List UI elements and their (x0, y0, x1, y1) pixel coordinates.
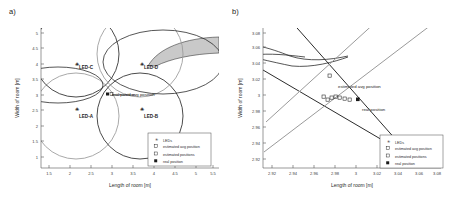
led-a-label: LED-A (79, 114, 94, 119)
y-tick-label: 2.98 (252, 109, 261, 114)
legend-filled-square-icon (386, 161, 389, 164)
led-a-star-icon: ✳ (75, 107, 80, 112)
panel-b-plot: 2.92 2.94 2.96 2.98 3 3.02 3.04 3.06 3.0… (230, 0, 461, 203)
estimated-avg-position-annotation: estimated avg position (338, 84, 381, 89)
x-tick-label: 2.98 (331, 171, 340, 176)
x-tick-label: 2.92 (268, 171, 277, 176)
panel-a-x-axis-title: Length of room [m] (109, 182, 152, 188)
legend-label: real position (163, 160, 183, 164)
y-tick-label: 3 (36, 93, 39, 98)
panel-a-x-ticks: 1.5 2 2.5 3 3.5 4 4.5 5 5.5 (46, 165, 216, 176)
legend-label: estimated avg position (163, 145, 200, 149)
y-tick-label: 3.06 (252, 45, 261, 50)
led-b-label: LED-B (144, 114, 159, 119)
x-tick-label: 2.94 (289, 171, 298, 176)
x-tick-label: 3.06 (415, 171, 424, 176)
x-tick-label: 2.5 (88, 171, 94, 176)
panel-a-y-ticks: 1 1.5 2 2.5 3 3.5 4 4.5 5 (32, 31, 44, 160)
x-tick-label: 1.5 (46, 171, 52, 176)
estimated-position-marker (326, 98, 329, 101)
x-tick-label: 3 (111, 171, 114, 176)
y-tick-label: 3.08 (252, 31, 261, 36)
led-c-label: LED-C (79, 65, 94, 70)
legend-label: LEDs (395, 141, 404, 145)
y-tick-label: 5 (36, 31, 39, 36)
panel-a-y-axis-title: Width of room [m] (14, 78, 20, 118)
led-b-star-icon: ✳ (140, 107, 145, 112)
x-tick-label: 2 (69, 171, 72, 176)
x-tick-label: 5.5 (210, 171, 216, 176)
legend-label: estimated positions (395, 155, 427, 159)
estimated-position-marker (330, 96, 333, 99)
y-tick-label: 2 (36, 124, 39, 129)
y-tick-label: 4.5 (32, 46, 38, 51)
y-tick-label: 1.5 (32, 139, 38, 144)
estimated-avg-position-marker (348, 98, 351, 101)
x-tick-label: 3 (355, 171, 358, 176)
estimated-position-marker (338, 96, 341, 99)
panel-b-x-axis-title: Length of room [m] (331, 182, 374, 188)
panel-b-y-axis-title: Width of room [m] (237, 78, 243, 118)
x-tick-label: 4.5 (172, 171, 178, 176)
panel-b: b) (230, 0, 461, 203)
panel-a-legend: ✳ LEDs estimated avg position estimated … (148, 133, 211, 166)
real-position-annotation: real position (112, 92, 136, 97)
y-tick-label: 2.94 (252, 141, 261, 146)
y-tick-label: 2.5 (32, 108, 38, 113)
x-tick-label: 5 (195, 171, 198, 176)
panel-a: a) (0, 0, 230, 203)
panel-b-legend: ✳ LEDs estimated avg position estimated … (380, 135, 443, 168)
legend-filled-square-icon (154, 159, 157, 162)
y-tick-label: 3.04 (252, 61, 261, 66)
figure-container: a) (0, 0, 461, 203)
y-tick-label: 4 (36, 62, 39, 67)
real-position-annotation: real position (362, 107, 386, 112)
x-tick-label: 3.04 (394, 171, 403, 176)
x-tick-label: 2.96 (310, 171, 319, 176)
panel-b-y-ticks: 2.92 2.94 2.96 2.98 3 3.02 3.04 3.06 3.0… (252, 31, 266, 162)
estimated-position-marker (328, 74, 331, 77)
panel-a-center-markers: estimated avg position real position (106, 92, 155, 97)
panel-a-plot: 1.5 2 2.5 3 3.5 4 4.5 5 5.5 (0, 0, 230, 203)
x-tick-label: 3.02 (373, 171, 382, 176)
legend-label: LEDs (163, 139, 172, 143)
legend-label: estimated positions (163, 153, 195, 157)
y-tick-label: 2.92 (252, 157, 261, 162)
led-d-label: LED-D (144, 65, 159, 70)
y-tick-label: 3 (258, 93, 261, 98)
y-tick-label: 1 (36, 155, 39, 160)
estimated-position-marker (322, 95, 325, 98)
x-tick-label: 4 (153, 171, 156, 176)
y-tick-label: 3.5 (32, 77, 38, 82)
y-tick-label: 2.96 (252, 125, 261, 130)
real-position-marker (356, 98, 360, 102)
real-position-marker (106, 93, 109, 96)
y-tick-label: 3.02 (252, 77, 261, 82)
legend-label: real position (395, 162, 415, 166)
x-tick-label: 3.08 (433, 171, 442, 176)
estimated-position-marker (343, 97, 346, 100)
x-tick-label: 3.5 (130, 171, 136, 176)
legend-label: estimated avg position (395, 147, 432, 151)
